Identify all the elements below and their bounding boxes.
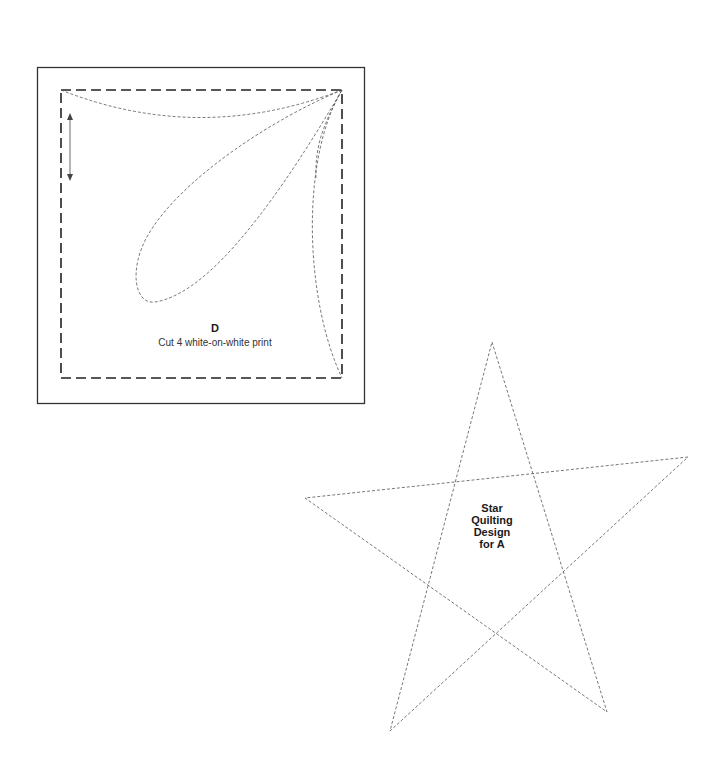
quilting-curve-right-outer [312,90,342,378]
pattern-canvas [0,0,728,766]
star-label: Star Quilting Design for A [452,502,532,550]
star-label-line: Quilting [452,514,532,526]
star-label-line: for A [452,538,532,550]
star-label-line: Star [452,502,532,514]
template-d-seam-line [61,90,342,378]
template-d-outer-border [38,68,365,404]
star-label-line: Design [452,526,532,538]
grain-arrow-icon [67,113,73,181]
template-d-letter: D [140,322,290,334]
quilting-leaf [136,90,342,302]
template-d-cut-instruction: Cut 4 white-on-white print [120,337,310,348]
template-d [38,68,365,404]
quilting-curve-top [61,90,342,118]
quilting-curve-right-inner [316,90,342,180]
